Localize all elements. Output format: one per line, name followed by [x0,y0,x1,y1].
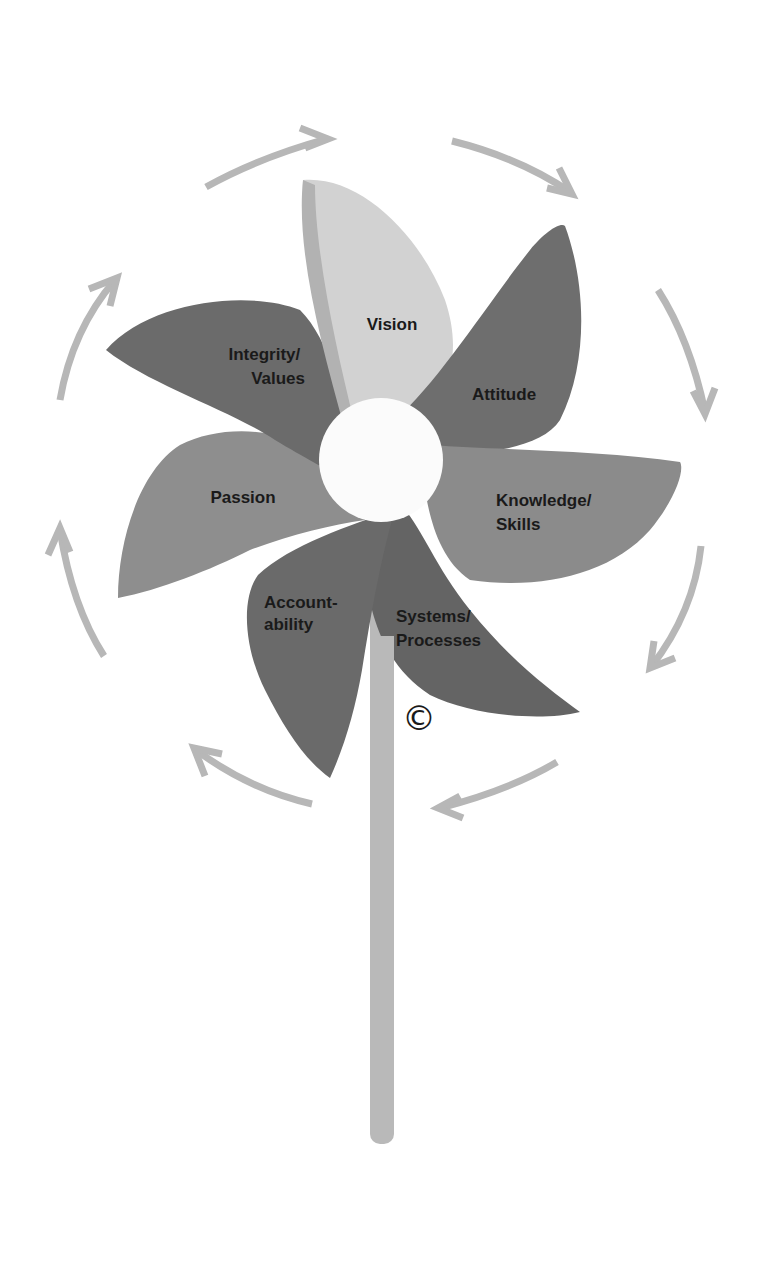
copyright-icon: © [402,698,436,738]
label-attitude: Attitude [472,385,536,404]
arrow-right-lower-icon [650,546,701,668]
arrow-left-lower-icon [48,528,104,656]
arrow-top-right-icon [452,141,572,194]
pinwheel-diagram: Vision Attitude Knowledge/ Skills System… [0,0,762,1286]
arrow-right-upper-icon [658,290,715,414]
blade-knowledge-skills [425,445,681,583]
arrow-top-left-icon [206,128,328,187]
arrow-bottom-left-icon [194,748,312,804]
arrow-bottom-right-icon [438,762,557,818]
label-passion: Passion [210,488,275,507]
stick-overlap [370,636,394,786]
arrow-left-upper-icon [60,278,117,400]
label-vision: Vision [367,315,418,334]
pinwheel-hub [319,398,443,522]
